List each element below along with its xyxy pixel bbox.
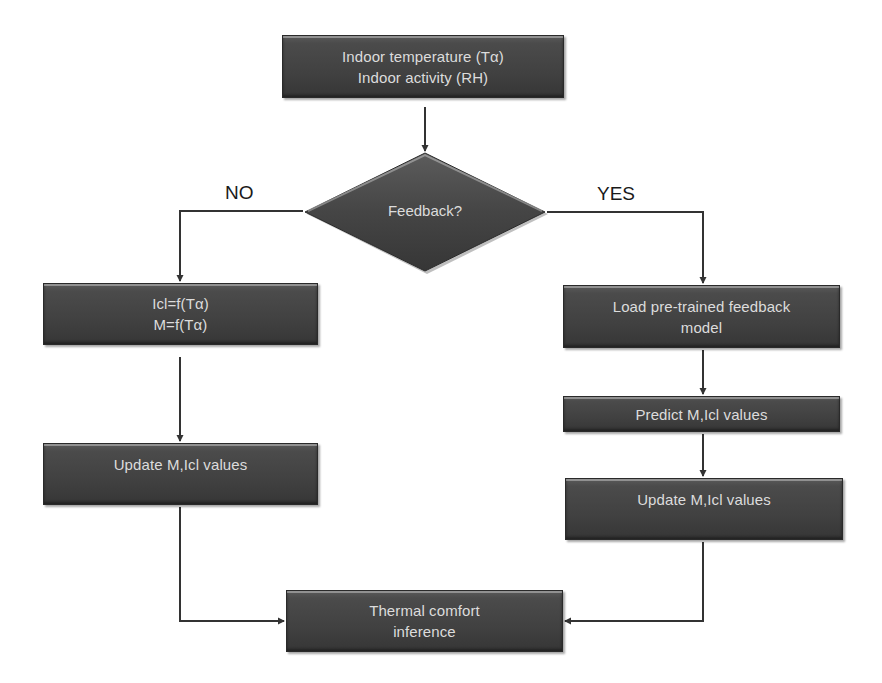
flowchart-canvas: Indoor temperature (Tα) Indoor activity … bbox=[0, 0, 882, 683]
node-load-pretrained-model: Load pre-trained feedback model bbox=[563, 285, 840, 348]
arrow-decision-to-yes-branch bbox=[547, 212, 703, 283]
node-compute-icl-m: Icl=f(Tα) M=f(Tα) bbox=[43, 283, 318, 345]
node-update-values-left-text: Update M,Icl values bbox=[114, 454, 248, 475]
node-update-values-left: Update M,Icl values bbox=[43, 443, 318, 505]
node-load-model-text-line1: Load pre-trained feedback bbox=[613, 296, 791, 317]
node-predict-values: Predict M,Icl values bbox=[563, 396, 840, 432]
node-thermal-comfort-inference: Thermal comfort inference bbox=[286, 590, 563, 652]
node-thermal-comfort-text-line1: Thermal comfort bbox=[369, 600, 480, 621]
node-indoor-activity-text: Indoor activity (RH) bbox=[358, 67, 488, 88]
node-predict-values-text: Predict M,Icl values bbox=[635, 404, 767, 425]
node-update-values-right: Update M,Icl values bbox=[565, 478, 843, 540]
arrow-update-right-to-output bbox=[565, 542, 703, 621]
node-thermal-comfort-text-line2: inference bbox=[393, 621, 456, 642]
node-indoor-temperature-text: Indoor temperature (Tα) bbox=[342, 46, 504, 67]
node-update-values-right-text: Update M,Icl values bbox=[637, 489, 771, 510]
branch-label-yes: YES bbox=[597, 183, 635, 205]
arrow-update-left-to-output bbox=[180, 507, 284, 621]
node-indoor-inputs: Indoor temperature (Tα) Indoor activity … bbox=[282, 35, 564, 98]
node-m-formula-text: M=f(Tα) bbox=[154, 314, 208, 335]
arrow-decision-to-no-branch bbox=[180, 211, 303, 281]
node-icl-formula-text: Icl=f(Tα) bbox=[152, 293, 209, 314]
node-load-model-text-line2: model bbox=[681, 317, 722, 338]
branch-label-no: NO bbox=[225, 182, 254, 204]
decision-feedback-text: Feedback? bbox=[365, 202, 485, 219]
